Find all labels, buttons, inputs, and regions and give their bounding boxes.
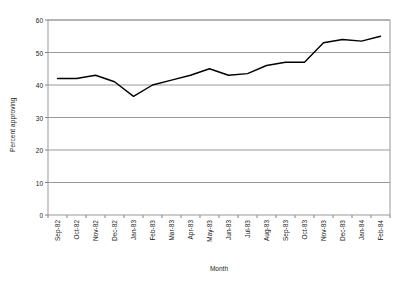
gridlines [48, 20, 390, 183]
y-tick-label: 40 [22, 82, 46, 89]
y-tick-label: 20 [22, 147, 46, 154]
x-tick-label: Oct-82 [73, 220, 80, 240]
x-tick-label: May-83 [206, 220, 213, 242]
x-tick-label: Jul-83 [244, 220, 251, 238]
y-tick-label: 0 [22, 212, 46, 219]
y-tick-label: 10 [22, 179, 46, 186]
plot-area [0, 0, 420, 287]
y-tick-label: 50 [22, 49, 46, 56]
x-tick-label: Jan-84 [358, 220, 365, 240]
y-tick-label: 60 [22, 17, 46, 24]
x-tick-label: Apr-83 [187, 220, 194, 240]
x-axis-tick-marks [45, 20, 390, 218]
x-tick-label: Sep-83 [282, 220, 289, 241]
x-tick-label: Dec-82 [111, 220, 118, 241]
x-tick-label: Feb-83 [149, 220, 156, 241]
x-tick-label: Dec-83 [339, 220, 346, 241]
x-tick-label: Nov-82 [92, 220, 99, 241]
line-chart: Percent approving 60 50 40 30 20 10 0 Se… [0, 0, 420, 287]
y-axis-title: Percent approving [4, 60, 20, 190]
x-tick-label: Oct-83 [301, 220, 308, 240]
data-series-line [58, 36, 381, 96]
x-tick-label: Aug-83 [263, 220, 270, 241]
x-tick-label: Jun-83 [225, 220, 232, 240]
y-axis-tick-labels: 60 50 40 30 20 10 0 [22, 0, 46, 287]
x-tick-label: Sep-82 [54, 220, 61, 241]
x-tick-label: Jan-83 [130, 220, 137, 240]
x-tick-label: Mar-83 [168, 220, 175, 241]
y-tick-label: 30 [22, 114, 46, 121]
x-tick-label: Feb-84 [377, 220, 384, 241]
x-axis-title: Month [48, 265, 390, 272]
x-tick-label: Nov-83 [320, 220, 327, 241]
